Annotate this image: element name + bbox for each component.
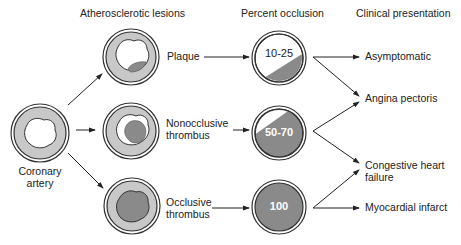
header-clinical-presentation: Clinical presentation xyxy=(356,8,451,20)
coronary-artery-label-line2: artery xyxy=(10,178,70,190)
presentation-label-line1: Congestive heart xyxy=(365,160,444,172)
lesion-label-plaque: Plaque xyxy=(167,51,200,63)
presentation-asymptomatic: Asymptomatic xyxy=(365,51,431,63)
lesion-label-nonocclusive-thrombus: Nonocclusive thrombus xyxy=(166,118,228,141)
lesion-label-line2: thrombus xyxy=(166,209,212,221)
lesion-label-line2: thrombus xyxy=(166,130,228,142)
occlusion-value-100: 100 xyxy=(254,200,304,212)
lesion-label-occlusive-thrombus: Occlusive thrombus xyxy=(166,197,212,220)
plaque-lesion-icon xyxy=(103,29,159,85)
coronary-artery-label-line1: Coronary xyxy=(10,166,70,178)
arrows-to-presentation xyxy=(313,57,359,208)
arrows-to-lesions xyxy=(68,74,103,188)
nonocclusive-thrombus-lesion-icon xyxy=(103,103,159,159)
presentation-angina-pectoris: Angina pectoris xyxy=(365,93,437,105)
presentation-myocardial-infarct: Myocardial infarct xyxy=(365,202,447,214)
occlusive-thrombus-lesion-icon xyxy=(104,178,160,234)
lesion-label-line1: Occlusive xyxy=(166,197,212,209)
presentation-congestive-heart-failure: Congestive heart failure xyxy=(365,160,444,183)
occlusion-value-10-25: 10-25 xyxy=(254,47,304,59)
header-percent-occlusion: Percent occlusion xyxy=(241,8,324,20)
presentation-label-line2: failure xyxy=(365,172,444,184)
coronary-artery-label: Coronary artery xyxy=(10,166,70,189)
lesion-label-line1: Nonocclusive xyxy=(166,118,228,130)
header-atherosclerotic-lesions: Atherosclerotic lesions xyxy=(80,8,185,20)
occlusion-value-50-70: 50-70 xyxy=(254,126,304,138)
coronary-artery-icon xyxy=(11,104,69,162)
